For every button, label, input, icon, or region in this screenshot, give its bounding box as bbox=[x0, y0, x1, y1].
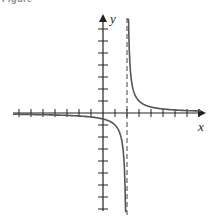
curve-left-branch bbox=[13, 114, 127, 211]
graph-figure: Figure y x bbox=[0, 0, 214, 223]
y-axis-label: y bbox=[108, 11, 116, 26]
axis-ticks bbox=[19, 29, 199, 209]
graph-canvas: y x bbox=[0, 0, 214, 223]
curve-right-branch bbox=[127, 19, 201, 111]
x-axis-label: x bbox=[197, 119, 204, 134]
